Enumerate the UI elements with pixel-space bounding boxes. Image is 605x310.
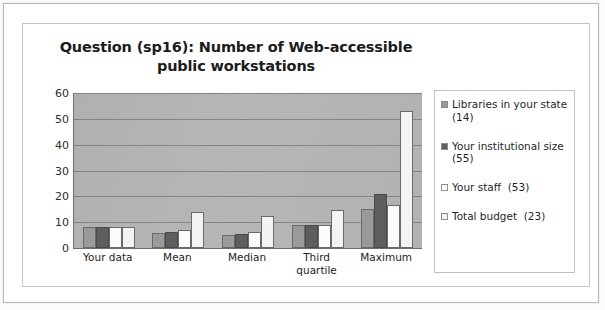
bar — [96, 227, 109, 248]
bar — [318, 225, 331, 248]
legend-swatch-icon — [441, 143, 448, 150]
legend-item: Total budget (23) — [441, 210, 569, 223]
legend-item: Your institutional size (55) — [441, 140, 569, 166]
chart-legend: Libraries in your state (14)Your institu… — [434, 90, 575, 273]
y-axis-tick-label: 10 — [39, 216, 69, 229]
y-axis: 6050403020100 — [39, 93, 69, 248]
legend-swatch-icon — [441, 184, 448, 191]
bar — [261, 216, 274, 248]
bar — [109, 227, 122, 248]
legend-swatch-icon — [441, 213, 448, 220]
legend-label: Your staff (53) — [452, 181, 529, 194]
x-axis-category-label: Median — [212, 251, 282, 277]
x-axis-category-label: Your data — [73, 251, 143, 277]
chart-container: Question (sp16): Number of Web-accessibl… — [22, 23, 590, 287]
legend-label: Total budget (23) — [452, 210, 545, 223]
bar-group — [75, 93, 143, 248]
y-axis-tick-label: 20 — [39, 190, 69, 203]
bar-group — [214, 93, 282, 248]
bars-layer — [74, 93, 422, 248]
bar-group — [353, 93, 421, 248]
legend-label: Libraries in your state (14) — [452, 98, 567, 124]
x-axis-category-label: Maximum — [351, 251, 421, 277]
plot-area — [73, 93, 422, 249]
y-axis-tick-label: 30 — [39, 164, 69, 177]
x-axis-category-label: Third quartile — [282, 251, 352, 277]
bar — [122, 227, 135, 248]
legend-item: Libraries in your state (14) — [441, 98, 569, 124]
bar — [361, 209, 374, 248]
bar-group — [144, 93, 212, 248]
x-axis-category-label: Mean — [143, 251, 213, 277]
bar — [191, 212, 204, 248]
legend-label: Your institutional size (55) — [452, 140, 564, 166]
bar — [222, 235, 235, 248]
bar — [292, 225, 305, 248]
y-axis-tick-label: 50 — [39, 112, 69, 125]
scanned-page-background: Question (sp16): Number of Web-accessibl… — [0, 0, 605, 310]
bar — [152, 233, 165, 249]
y-axis-tick-label: 0 — [39, 242, 69, 255]
y-axis-tick-label: 40 — [39, 138, 69, 151]
bar — [83, 227, 96, 248]
bar-group — [283, 93, 351, 248]
bar — [374, 194, 387, 248]
legend-swatch-icon — [441, 101, 448, 108]
bar — [305, 225, 318, 248]
x-axis: Your dataMeanMedianThird quartileMaximum — [73, 251, 421, 277]
bar — [178, 230, 191, 248]
bar — [331, 210, 344, 248]
bar — [165, 232, 178, 248]
bar — [400, 111, 413, 248]
bar — [387, 205, 400, 248]
bar — [235, 234, 248, 248]
plot-wrapper: 6050403020100 Your dataMeanMedianThird q… — [39, 93, 423, 276]
legend-item: Your staff (53) — [441, 181, 569, 194]
page-sheet: Question (sp16): Number of Web-accessibl… — [3, 3, 599, 303]
y-axis-tick-label: 60 — [39, 87, 69, 100]
bar — [248, 232, 261, 248]
chart-title: Question (sp16): Number of Web-accessibl… — [41, 38, 431, 76]
